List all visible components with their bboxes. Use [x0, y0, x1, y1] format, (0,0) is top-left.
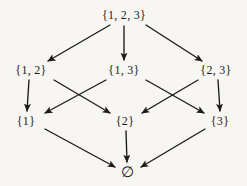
edge-n13-to-n3 [146, 80, 204, 113]
edge-n123-to-n23 [146, 25, 202, 61]
edge-layer [0, 0, 247, 186]
node-123: {1, 2, 3} [101, 9, 147, 21]
edges-group [27, 25, 220, 167]
edge-n1-to-nempty [45, 129, 115, 167]
edge-n2-to-nempty [126, 131, 127, 162]
edge-n12-to-n2 [54, 80, 110, 113]
node-13: {1, 3} [107, 64, 140, 76]
edge-n13-to-n1 [45, 80, 106, 113]
edge-n12-to-n1 [27, 80, 29, 111]
hasse-diagram-figure: {1, 2, 3} {1, 2} {1, 3} {2, 3} {1} {2} {… [0, 0, 247, 186]
node-3: {3} [210, 115, 230, 127]
node-23: {2, 3} [199, 64, 232, 76]
edge-n23-to-n2 [142, 80, 198, 113]
node-empty-set: ∅ [119, 165, 136, 180]
node-1: {1} [16, 115, 36, 127]
edge-n3-to-nempty [141, 129, 205, 167]
node-12: {1, 2} [14, 64, 47, 76]
edge-n123-to-n12 [48, 25, 110, 61]
edge-n23-to-n3 [218, 80, 220, 111]
node-2: {2} [115, 115, 135, 127]
